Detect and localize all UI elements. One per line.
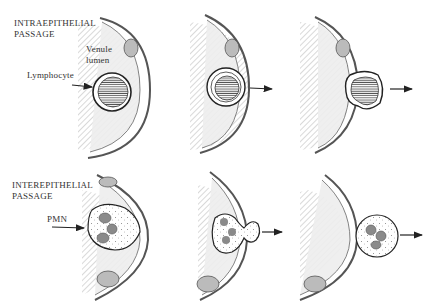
inter-title-line1: INTEREPITHELIAL <box>12 180 93 191</box>
inter-title: INTEREPITHELIAL PASSAGE <box>12 180 93 202</box>
venule-label-line2: lumen <box>86 55 112 66</box>
inter-stage-3 <box>300 175 422 300</box>
lymphocyte-label: Lymphocyte <box>27 70 74 81</box>
intra-stage-2 <box>190 15 272 153</box>
venule-lumen-label: Venule lumen <box>86 44 112 66</box>
intra-stage-3 <box>300 17 412 153</box>
intra-title-line2: PASSAGE <box>14 29 96 40</box>
inter-stage-2 <box>197 172 282 300</box>
inter-title-line2: PASSAGE <box>12 191 93 202</box>
venule-label-line1: Venule <box>86 44 112 55</box>
pmn-label: PMN <box>47 214 67 225</box>
intra-title-line1: INTRAEPITHELIAL <box>14 18 96 29</box>
intra-title: INTRAEPITHELIAL PASSAGE <box>14 18 96 40</box>
